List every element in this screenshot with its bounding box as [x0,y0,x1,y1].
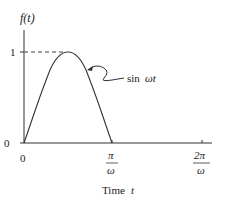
annotation-leader [88,66,124,81]
x-axis-label-var: t [131,184,135,196]
curve-label-arg: ωt [145,72,157,84]
x-tick-pi-numerator: π [108,149,114,161]
curve-label-fn: sin [127,72,140,84]
x-tick-pi-denominator: ω [107,164,115,176]
sine-pulse-chart: f(t) 1 0 0 π ω 2π ω Time t sin ωt [0,0,226,202]
y-tick-label-one: 1 [10,46,16,58]
y-axis-label: f(t) [20,11,35,25]
x-tick-2pi-numerator: 2π [194,149,206,161]
y-tick-label-zero: 0 [4,137,10,149]
x-tick-2pi-denominator: ω [197,164,205,176]
x-axis-label-word: Time [102,184,125,196]
x-tick-label-zero: 0 [20,152,26,164]
arrow-head-icon [87,66,93,71]
